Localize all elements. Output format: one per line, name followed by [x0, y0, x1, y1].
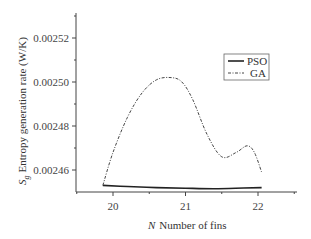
y-tick-label: 0.00252 — [33, 32, 69, 44]
x-axis-title: NNumber of fins — [147, 219, 227, 231]
y-tick-label: 0.00246 — [33, 164, 69, 176]
chart: 0.002460.002480.002500.00252 202122 SgEn… — [0, 0, 311, 239]
y-ticks: 0.002460.002480.002500.00252 — [33, 16, 76, 176]
series-pso-line — [103, 185, 262, 188]
y-tick-label: 0.00250 — [33, 76, 69, 88]
legend-pso-label: PSO — [247, 55, 267, 67]
x-tick-label: 21 — [180, 200, 191, 212]
y-tick-label: 0.00248 — [33, 120, 69, 132]
legend: PSO GA — [224, 54, 269, 80]
x-tick-label: 20 — [108, 200, 120, 212]
x-tick-label: 22 — [253, 200, 264, 212]
y-axis-title: SgEntropy generation rate (W/K) — [16, 37, 31, 185]
series-lines — [103, 77, 262, 188]
x-ticks: 202122 — [77, 192, 295, 212]
series-ga-line — [103, 77, 262, 185]
legend-ga-label: GA — [250, 67, 266, 79]
